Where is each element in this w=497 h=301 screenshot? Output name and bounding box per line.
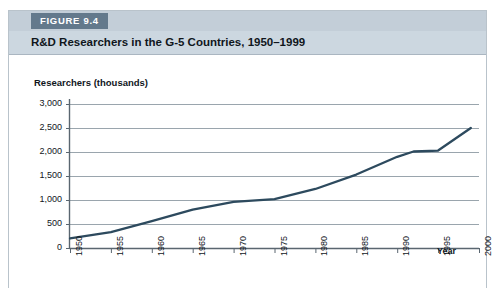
figure-container: FIGURE 9.4 R&D Researchers in the G-5 Co… [8,10,487,288]
x-axis-tick-label: 1960 [156,236,166,256]
x-axis-tick-label: 1950 [74,236,84,256]
figure-header-band: FIGURE 9.4 [9,11,486,31]
y-axis-tick-label: 2,000 [22,146,62,156]
x-axis-tick-label: 1995 [442,236,452,256]
data-series-line [70,128,471,238]
y-axis-tick-label: 1,000 [22,194,62,204]
x-axis-tick-label: 1990 [401,236,411,256]
plot-area: Researchers (thousands) Year 05001,0001,… [9,55,486,288]
figure-title: R&D Researchers in the G-5 Countries, 19… [31,31,305,54]
y-axis-tick-label: 500 [22,218,62,228]
x-axis-tick-label: 2000 [483,236,493,256]
x-axis-tick-label: 1980 [319,236,329,256]
x-axis-tick-label: 1985 [360,236,370,256]
x-axis-tick-label: 1965 [197,236,207,256]
y-axis-tick-label: 3,000 [22,98,62,108]
y-axis-tick-label: 1,500 [22,170,62,180]
y-axis-tick-label: 0 [22,242,62,252]
x-axis-tick-label: 1975 [279,236,289,256]
x-axis-tick-label: 1955 [115,236,125,256]
gridlines [70,105,479,225]
x-axis-tick-label: 1970 [238,236,248,256]
y-axis-tick-label: 2,500 [22,122,62,132]
figure-number-tag: FIGURE 9.4 [31,13,108,29]
